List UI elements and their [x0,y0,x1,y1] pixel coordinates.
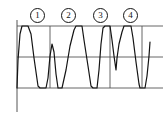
waveform-figure: 1 2 3 4 [0,0,167,120]
marker-4-label: 4 [128,11,133,20]
waveform-plot [0,0,167,120]
marker-3: 3 [93,8,108,23]
marker-3-label: 3 [98,11,103,20]
marker-2-label: 2 [66,11,71,20]
marker-1: 1 [30,8,45,23]
marker-1-label: 1 [35,11,40,20]
marker-4: 4 [123,8,138,23]
marker-2: 2 [61,8,76,23]
